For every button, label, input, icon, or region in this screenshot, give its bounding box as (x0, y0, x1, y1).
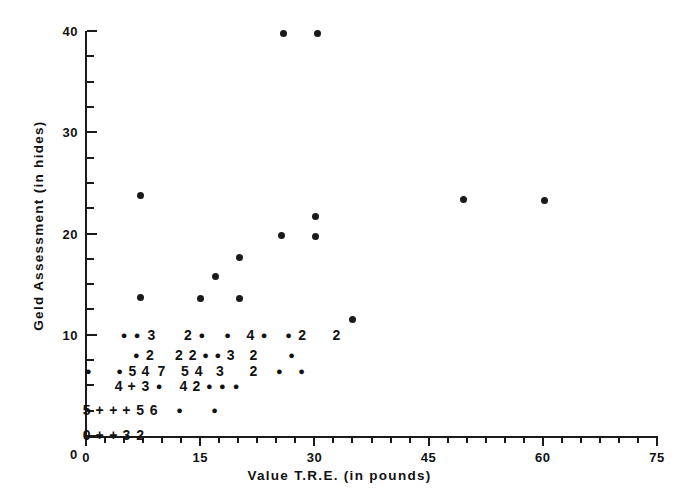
data-point: ● (198, 329, 205, 340)
x-axis-minor-tick (523, 437, 525, 443)
count-annotation: 4 (195, 364, 203, 378)
x-axis-minor-tick (561, 437, 563, 443)
data-point (349, 316, 356, 323)
x-axis-minor-tick (294, 437, 296, 443)
data-point (541, 197, 548, 204)
x-axis-major-tick (542, 437, 544, 446)
scatter-plot-figure: 01530456075 102030400 ●●32●●4●●22●222●●3… (0, 0, 679, 496)
count-annotation: + (109, 403, 117, 417)
y-axis-major-tick (87, 334, 97, 336)
y-axis-major-tick (87, 131, 97, 133)
y-axis-minor-tick (87, 308, 94, 310)
count-annotation: 5 (83, 403, 91, 417)
y-axis-tick-label: 20 (40, 226, 78, 241)
data-point (137, 294, 144, 301)
x-axis-minor-tick (332, 437, 334, 443)
y-axis-minor-tick (87, 359, 94, 361)
y-axis-minor-tick (87, 81, 94, 83)
x-axis-tick-label: 45 (421, 450, 436, 465)
count-annotation: + (96, 428, 104, 442)
x-axis-tick-label: 0 (82, 450, 90, 465)
x-axis-minor-tick (504, 437, 506, 443)
x-axis-minor-tick (237, 437, 239, 443)
count-annotation: 5 (129, 364, 137, 378)
count-annotation: + (96, 403, 104, 417)
x-axis-minor-tick (447, 437, 449, 443)
y-axis-minor-tick (87, 55, 94, 57)
x-axis-minor-tick (466, 437, 468, 443)
count-annotation: 2 (333, 328, 341, 342)
y-axis-minor-tick (87, 258, 94, 260)
x-axis-minor-tick (485, 437, 487, 443)
data-point: ● (276, 366, 283, 377)
count-annotation: + (122, 403, 130, 417)
count-annotation: 3 (122, 428, 130, 442)
count-annotation: 2 (136, 428, 144, 442)
x-axis-minor-tick (618, 437, 620, 443)
count-annotation: 4 (180, 379, 188, 393)
count-annotation: 3 (216, 364, 224, 378)
count-annotation: + (128, 379, 136, 393)
y-axis-tick-label: 40 (40, 24, 78, 39)
count-annotation: 2 (192, 379, 200, 393)
data-point (197, 295, 204, 302)
x-axis-minor-tick (218, 437, 220, 443)
data-point: ● (224, 329, 231, 340)
x-axis-major-tick (313, 437, 315, 446)
y-axis-title: Geld Assessment (in hides) (31, 96, 46, 356)
data-point (280, 30, 287, 37)
data-point: ● (116, 366, 123, 377)
data-point: ● (134, 329, 141, 340)
count-annotation: 3 (148, 328, 156, 342)
data-point: ● (214, 350, 221, 361)
x-axis-major-tick (656, 437, 658, 446)
count-annotation: 2 (175, 348, 183, 362)
count-annotation: 6 (150, 403, 158, 417)
count-annotation: + (109, 428, 117, 442)
data-point: ● (133, 350, 140, 361)
count-annotation: 4 (115, 379, 123, 393)
count-annotation: 3 (141, 379, 149, 393)
count-annotation: 5 (181, 364, 189, 378)
count-annotation: 2 (298, 328, 306, 342)
count-annotation: 4 (247, 328, 255, 342)
x-axis-minor-tick (256, 437, 258, 443)
count-annotation: 5 (136, 403, 144, 417)
data-point (137, 192, 144, 199)
y-axis-tick-label: 0 (70, 447, 78, 462)
x-axis-minor-tick (390, 437, 392, 443)
data-point (312, 233, 319, 240)
x-axis-minor-tick (637, 437, 639, 443)
x-axis-tick-label: 30 (307, 450, 322, 465)
data-point: ● (233, 381, 240, 392)
y-axis-major-tick (87, 30, 97, 32)
data-point (314, 30, 321, 37)
x-axis-minor-tick (351, 437, 353, 443)
x-axis-minor-tick (409, 437, 411, 443)
y-axis-minor-tick (87, 182, 94, 184)
data-point (236, 254, 243, 261)
y-axis-minor-tick (87, 384, 94, 386)
data-point: ● (156, 381, 163, 392)
count-annotation: 2 (146, 348, 154, 362)
count-annotation: 2 (189, 348, 197, 362)
data-point: ● (85, 366, 92, 377)
count-annotation: 0 (83, 428, 91, 442)
count-annotation: 4 (141, 364, 149, 378)
count-annotation: 2 (250, 364, 258, 378)
x-axis-minor-tick (599, 437, 601, 443)
x-axis-minor-tick (371, 437, 373, 443)
x-axis-major-tick (428, 437, 430, 446)
x-axis-tick-label: 75 (649, 450, 664, 465)
x-axis-tick-label: 15 (192, 450, 207, 465)
count-annotation: 7 (157, 364, 165, 378)
x-axis-tick-label: 60 (535, 450, 550, 465)
x-axis-minor-tick (161, 437, 163, 443)
count-annotation: 3 (227, 348, 235, 362)
data-point: ● (206, 381, 213, 392)
data-point (236, 295, 243, 302)
x-axis-minor-tick (275, 437, 277, 443)
y-axis-major-tick (87, 233, 97, 235)
data-point (278, 232, 285, 239)
data-point (460, 196, 467, 203)
